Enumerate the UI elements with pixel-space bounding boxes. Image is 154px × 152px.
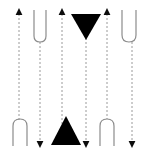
tangle-diagram-svg [0,0,154,152]
diagram-canvas [0,0,154,152]
